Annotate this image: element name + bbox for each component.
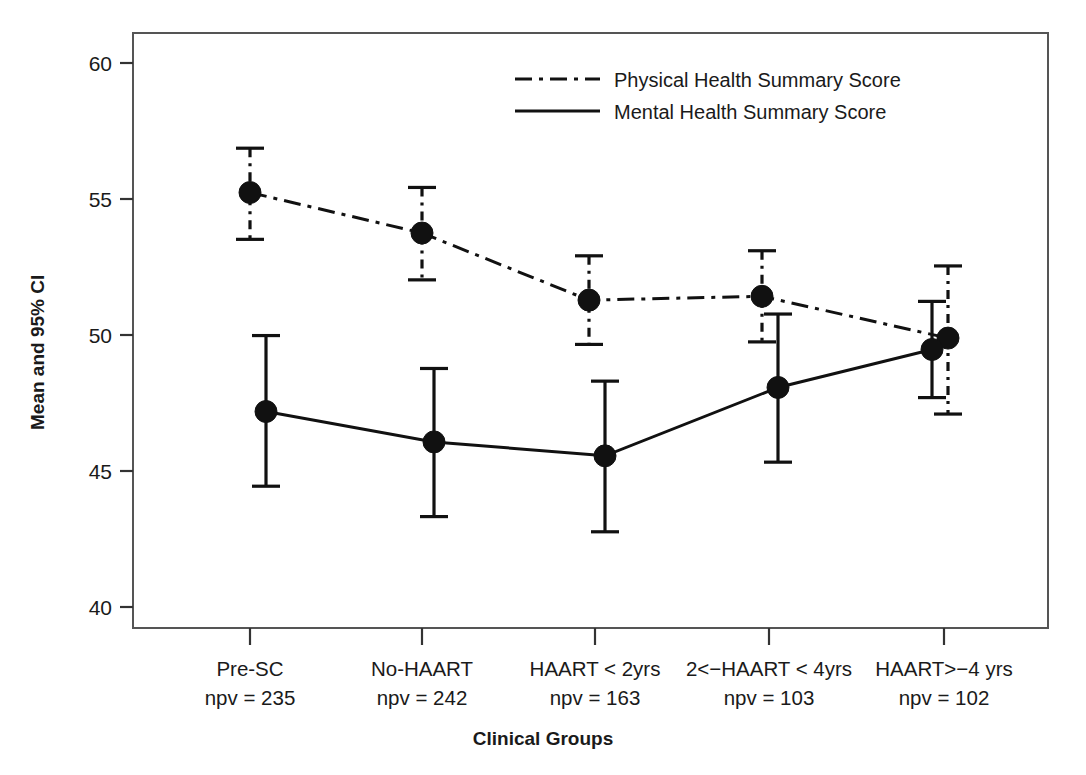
x-label-group-4-name: HAART>−4 yrs — [875, 657, 1012, 680]
y-tick-label-55: 55 — [89, 188, 112, 211]
x-label-group-0-name: Pre-SC — [216, 657, 283, 680]
chart-figure: 60 55 50 45 40 Mean and 95% CI Pre-SC np… — [0, 0, 1086, 775]
data-point-physical-1 — [411, 222, 433, 244]
series-physical-health — [236, 148, 962, 414]
x-label-group-3-name: 2<−HAART < 4yrs — [686, 657, 852, 680]
x-axis-title: Clinical Groups — [473, 728, 613, 749]
y-tick-label-60: 60 — [89, 52, 112, 75]
y-tick-label-40: 40 — [89, 596, 112, 619]
data-point-mental-4 — [921, 338, 943, 360]
data-point-physical-3 — [751, 285, 773, 307]
data-point-physical-0 — [239, 182, 261, 204]
x-label-group-0-npv: npv = 235 — [205, 686, 296, 709]
data-point-mental-2 — [594, 445, 616, 467]
x-label-group-2-name: HAART < 2yrs — [530, 657, 661, 680]
y-axis-ticks — [120, 63, 133, 607]
x-axis-category-labels: Pre-SC npv = 235 No-HAART npv = 242 HAAR… — [205, 657, 1013, 709]
data-point-mental-3 — [767, 376, 789, 398]
y-axis-tick-labels: 60 55 50 45 40 — [89, 52, 112, 619]
chart-canvas: 60 55 50 45 40 Mean and 95% CI Pre-SC np… — [0, 0, 1086, 775]
legend-label-mental: Mental Health Summary Score — [614, 101, 886, 123]
series-line-mental — [266, 349, 932, 455]
x-axis-ticks — [250, 628, 944, 645]
y-axis-title: Mean and 95% CI — [27, 275, 48, 430]
data-point-physical-2 — [578, 289, 600, 311]
x-label-group-4-npv: npv = 102 — [899, 686, 990, 709]
x-label-group-1-name: No-HAART — [371, 657, 474, 680]
series-mental-health — [252, 301, 946, 531]
y-tick-label-45: 45 — [89, 460, 112, 483]
y-tick-label-50: 50 — [89, 324, 112, 347]
legend-label-physical: Physical Health Summary Score — [614, 69, 901, 91]
data-point-mental-1 — [423, 431, 445, 453]
x-label-group-3-npv: npv = 103 — [724, 686, 815, 709]
x-label-group-1-npv: npv = 242 — [377, 686, 468, 709]
x-label-group-2-npv: npv = 163 — [550, 686, 641, 709]
chart-legend: Physical Health Summary Score Mental Hea… — [515, 69, 901, 123]
series-line-physical — [250, 193, 948, 339]
data-point-mental-0 — [255, 401, 277, 423]
